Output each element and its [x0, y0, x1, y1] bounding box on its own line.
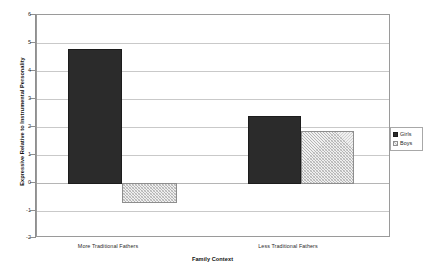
legend-label-boys: Boys [400, 140, 412, 147]
bar-boys-less-traditional [301, 131, 354, 184]
hatched-square-icon [393, 141, 398, 146]
x-tick-label-more-traditional: More Traditional Fathers [48, 243, 168, 250]
y-tick-label-neg1: -1 [1, 207, 31, 213]
x-tick-label-less-traditional: Less Traditional Fathers [228, 243, 348, 250]
y-tick-label-0: 0 [1, 179, 31, 185]
gridline-neg1 [37, 211, 389, 212]
plot-area [36, 14, 390, 237]
y-tick-label-2: 2 [1, 123, 31, 129]
solid-black-square-icon [393, 132, 398, 137]
legend-label-girls: Girls [400, 131, 411, 138]
bar-girls-less-traditional [248, 116, 301, 184]
y-tick-label-neg2: -2 [1, 234, 31, 240]
bar-girls-more-traditional [68, 49, 122, 184]
y-tick-label-1: 1 [1, 151, 31, 157]
gridline-5 [37, 43, 389, 44]
legend-item-boys: Boys [393, 139, 420, 148]
x-axis-title: Family Context [0, 256, 425, 262]
y-tick-label-5: 5 [1, 39, 31, 45]
chart-legend: Girls Boys [390, 127, 423, 151]
y-tick-label-6: 6 [1, 11, 31, 17]
bar-chart-figure: Expressive Relative to Instrumental Pers… [0, 0, 425, 269]
y-tick-label-4: 4 [1, 67, 31, 73]
legend-item-girls: Girls [393, 130, 420, 139]
bar-boys-more-traditional [122, 183, 177, 203]
y-tick-label-3: 3 [1, 95, 31, 101]
